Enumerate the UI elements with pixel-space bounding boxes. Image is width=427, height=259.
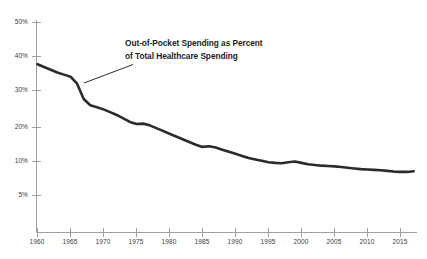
- y-tick-label-3: 20%: [6, 123, 28, 130]
- y-tick-label-0: 50%: [6, 18, 28, 25]
- x-tick-label-9: 2005: [319, 238, 349, 245]
- data-series-line: [38, 64, 414, 172]
- x-tick-label-3: 1975: [121, 238, 151, 245]
- x-tick-label-7: 1995: [253, 238, 283, 245]
- annotation-line-2: of Total Healthcare Spending: [125, 50, 295, 63]
- annotation-leader-line: [84, 65, 133, 84]
- x-tick-label-6: 1990: [220, 238, 250, 245]
- x-tick-label-10: 2010: [352, 238, 382, 245]
- x-tick-label-8: 2000: [286, 238, 316, 245]
- x-tick-label-0: 1960: [22, 238, 52, 245]
- y-tick-label-2: 30%: [6, 86, 28, 93]
- x-tick-label-4: 1980: [154, 238, 184, 245]
- chart-container: 50% 40% 30% 20% 10% 5% 1960 1965 1970 19…: [0, 0, 427, 259]
- y-tick-label-1: 40%: [6, 52, 28, 59]
- x-tick-label-11: 2015: [385, 238, 415, 245]
- chart-annotation: Out-of-Pocket Spending as Percent of Tot…: [125, 37, 295, 62]
- y-tick-label-4: 10%: [6, 157, 28, 164]
- x-tick-label-1: 1965: [55, 238, 85, 245]
- x-tick-label-5: 1985: [187, 238, 217, 245]
- y-tick-label-5: 5%: [6, 191, 28, 198]
- annotation-line-1: Out-of-Pocket Spending as Percent: [125, 37, 295, 50]
- x-tick-label-2: 1970: [88, 238, 118, 245]
